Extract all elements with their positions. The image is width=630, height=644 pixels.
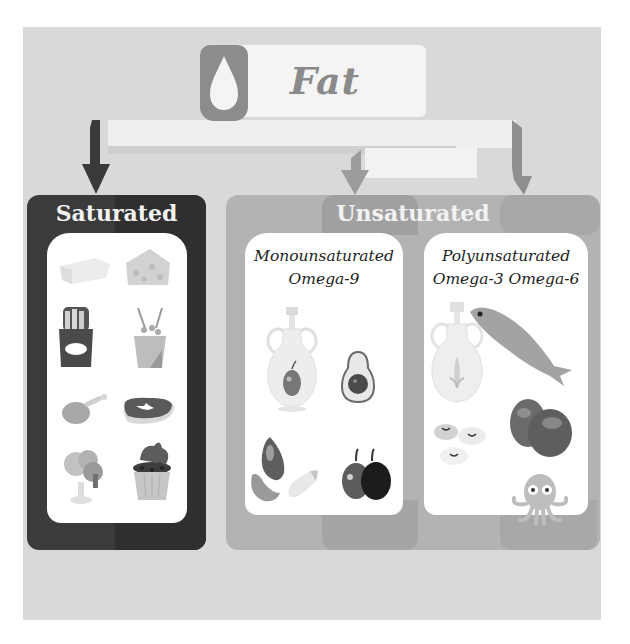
arrow-to-polyunsaturated-icon	[508, 120, 536, 196]
avocado-icon	[340, 350, 376, 404]
polyunsaturated-title: Polyunsaturated	[424, 245, 588, 268]
olive-oil-bottle-icon	[262, 305, 322, 415]
monounsaturated-title: Monounsaturated	[245, 245, 403, 268]
olives-icon	[338, 447, 394, 501]
fish-icon	[468, 304, 580, 386]
octopus-icon	[510, 472, 570, 528]
monounsaturated-label: Monounsaturated Omega-9	[245, 245, 403, 291]
almonds-icon	[248, 435, 328, 505]
unsaturated-label: Unsaturated	[226, 200, 600, 226]
butter-icon	[56, 252, 112, 286]
connector-bar-secondary	[365, 148, 477, 178]
saturated-label: Saturated	[27, 200, 206, 226]
polyunsaturated-omega: Omega-3 Omega-6	[424, 268, 588, 291]
french-fries-icon	[55, 305, 97, 369]
ice-cream-icon	[62, 448, 106, 506]
connector-bar-main	[108, 120, 516, 148]
polyunsaturated-label: Polyunsaturated Omega-3 Omega-6	[424, 245, 588, 291]
steak-icon	[122, 396, 176, 428]
nuts-icon	[508, 397, 574, 459]
monounsaturated-omega: Omega-9	[245, 268, 403, 291]
cupcake-icon	[130, 438, 176, 506]
root-title: Fat	[290, 58, 360, 103]
arrow-to-saturated-icon	[80, 120, 120, 196]
arrow-to-monounsaturated-icon	[337, 150, 371, 196]
chicken-leg-icon	[60, 393, 108, 427]
cheese-icon	[122, 245, 174, 291]
beans-icon	[432, 420, 490, 468]
popcorn-icon	[128, 306, 170, 370]
droplet-icon	[207, 54, 241, 112]
